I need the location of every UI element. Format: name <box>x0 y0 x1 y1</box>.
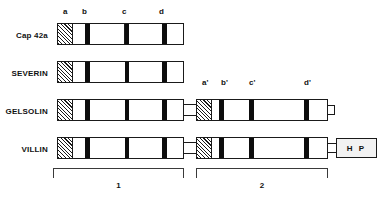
segment-d-band <box>162 24 167 44</box>
segment-d-prime-band <box>304 138 309 158</box>
protein-label-gelsolin: GELSOLIN <box>0 107 48 117</box>
segment-b-prime-band <box>219 138 224 158</box>
protein-bar-villin-domain2 <box>196 137 328 159</box>
segment-b-band <box>85 24 90 44</box>
segment-b-band <box>85 100 90 120</box>
protein-bar-villin-domain1 <box>57 137 184 159</box>
protein-bar-gelsolin-domain2 <box>196 99 328 121</box>
domain-tick-b: b <box>82 7 87 16</box>
protein-bar-gelsolin-domain1 <box>57 99 184 121</box>
segment-c-band <box>125 100 129 120</box>
segment-d-prime-band <box>304 100 309 120</box>
headpiece-box-villin: H P <box>336 138 377 158</box>
bracket-domain-1 <box>53 168 184 178</box>
domain-tick-b-prime: b' <box>221 78 228 87</box>
protein-label-cap42a: Cap 42a <box>4 31 48 41</box>
c-terminal-tail-stub-gelsolin <box>328 105 335 115</box>
protein-label-villin: VILLIN <box>4 145 48 155</box>
domain-tick-d: d <box>159 7 164 16</box>
segment-c-band <box>125 138 129 158</box>
protein-bar-cap42a-domain1 <box>57 23 184 45</box>
segment-a-hatch <box>58 24 73 44</box>
segment-b-prime-band <box>219 100 224 120</box>
domain-linker-gelsolin <box>184 104 196 116</box>
bracket-label-2: 2 <box>196 181 328 190</box>
segment-a-hatch <box>58 100 73 120</box>
domain-tick-c: c <box>122 7 126 16</box>
segment-a-prime-hatch <box>197 138 212 158</box>
segment-c-prime-band <box>249 100 254 120</box>
segment-c-prime-band <box>249 138 254 158</box>
domain-linker-villin <box>184 142 196 154</box>
headpiece-linker-villin <box>328 143 336 153</box>
domain-tick-a: a <box>63 7 67 16</box>
segment-a-prime-hatch <box>197 100 212 120</box>
segment-d-band <box>162 100 167 120</box>
segment-b-band <box>85 62 90 82</box>
protein-bar-severin-domain1 <box>57 61 184 83</box>
domain-tick-a-prime: a' <box>202 78 208 87</box>
protein-label-severin: SEVERIN <box>4 69 48 79</box>
segment-b-band <box>85 138 90 158</box>
segment-c-band <box>125 24 129 44</box>
domain-tick-c-prime: c' <box>249 78 255 87</box>
segment-c-band <box>125 62 129 82</box>
segment-a-hatch <box>58 138 73 158</box>
bracket-domain-2 <box>196 168 328 178</box>
domain-tick-d-prime: d' <box>304 78 311 87</box>
segment-a-hatch <box>58 62 73 82</box>
segment-d-band <box>162 62 167 82</box>
bracket-label-1: 1 <box>53 181 184 190</box>
figure-canvas: a b c d a' b' c' d' Cap 42a SEVERIN GELS… <box>0 0 381 201</box>
segment-d-band <box>162 138 167 158</box>
